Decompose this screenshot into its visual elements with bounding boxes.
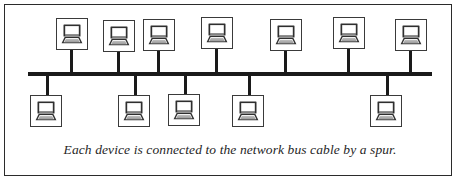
- computer-icon: [274, 24, 298, 46]
- computer-icon: [205, 22, 229, 44]
- device-bottom-3[interactable]: [168, 94, 200, 126]
- device-top-4[interactable]: [201, 17, 233, 49]
- device-top-7[interactable]: [395, 19, 427, 51]
- computer-icon: [236, 100, 260, 122]
- spur-device-bottom-4: [248, 74, 251, 96]
- spur-device-top-3: [157, 51, 160, 75]
- spur-device-top-1: [70, 50, 73, 75]
- spur-device-bottom-1: [46, 74, 49, 96]
- computer-icon: [337, 22, 361, 44]
- figure-caption: Each device is connected to the network …: [20, 142, 440, 158]
- spur-device-bottom-3: [184, 74, 187, 95]
- computer-icon: [34, 100, 58, 122]
- computer-icon: [60, 23, 84, 45]
- device-top-3[interactable]: [143, 19, 175, 51]
- device-bottom-2[interactable]: [118, 95, 150, 127]
- spur-device-top-6: [347, 49, 350, 75]
- device-bottom-5[interactable]: [370, 95, 402, 127]
- computer-icon: [399, 24, 423, 46]
- spur-device-bottom-2: [134, 74, 137, 96]
- device-top-6[interactable]: [333, 17, 365, 49]
- computer-icon: [107, 25, 131, 47]
- spur-device-top-4: [215, 49, 218, 75]
- spur-device-bottom-5: [386, 74, 389, 96]
- computer-icon: [374, 100, 398, 122]
- computer-icon: [122, 100, 146, 122]
- spur-device-top-7: [409, 51, 412, 75]
- computer-icon: [147, 24, 171, 46]
- bus-topology-figure: Each device is connected to the network …: [0, 0, 460, 184]
- spur-device-top-5: [284, 51, 287, 75]
- device-top-2[interactable]: [103, 20, 135, 52]
- spur-device-top-2: [117, 52, 120, 75]
- network-bus-cable: [28, 72, 432, 76]
- device-top-5[interactable]: [270, 19, 302, 51]
- device-top-1[interactable]: [56, 18, 88, 50]
- device-bottom-4[interactable]: [232, 95, 264, 127]
- device-bottom-1[interactable]: [30, 95, 62, 127]
- computer-icon: [172, 99, 196, 121]
